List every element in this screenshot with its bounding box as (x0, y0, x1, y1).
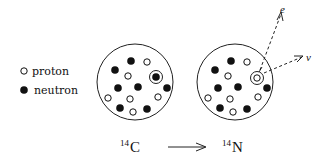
neutron-icon (163, 84, 171, 92)
neutron-icon (214, 84, 222, 92)
proton-icon (227, 96, 233, 102)
proton-icon (244, 59, 250, 65)
neutron-icon (143, 105, 151, 113)
carbon-14-nucleus (97, 44, 173, 120)
nitrogen-mass-number: 14 (222, 138, 232, 148)
neutron-legend-label: neutron (34, 84, 78, 97)
proton-icon (155, 94, 161, 100)
proton-icon (105, 95, 111, 101)
nitrogen-14-nucleus (197, 44, 273, 120)
neutrino-path (264, 57, 302, 73)
proton-icon (205, 95, 211, 101)
neutron-icon (127, 57, 135, 65)
proton-icon (130, 109, 136, 115)
neutron-icon (111, 66, 119, 74)
neutron-legend-icon (20, 86, 28, 94)
neutron-icon (114, 84, 122, 92)
neutron-icon (263, 84, 271, 92)
proton-icon (225, 73, 231, 79)
proton-icon (144, 59, 150, 65)
nucleus-boundary (97, 44, 173, 120)
electron-path (260, 14, 281, 70)
electron-label: e (280, 3, 285, 15)
carbon-mass-number: 14 (120, 138, 130, 148)
carbon-symbol: C (130, 139, 140, 155)
proton-icon (255, 94, 261, 100)
neutrino-label: ν (306, 51, 311, 63)
proton-icon (254, 75, 260, 81)
proton-icon (125, 73, 131, 79)
legend: proton neutron (20, 65, 78, 97)
proton-icon (230, 109, 236, 115)
neutrino-arrowhead-icon (294, 56, 303, 62)
neutron-icon (227, 57, 235, 65)
neutron-icon (211, 66, 219, 74)
neutron-icon (116, 104, 124, 112)
reaction-equation: 14 C 14 N (120, 138, 243, 155)
neutron-icon (134, 83, 142, 91)
beta-decay-diagram: proton neutron e ν 14 C 14 N (0, 0, 333, 164)
neutron-icon (243, 105, 251, 113)
neutron-icon (234, 83, 242, 91)
nitrogen-symbol: N (232, 139, 243, 155)
neutron-icon (152, 73, 160, 81)
proton-icon (127, 96, 133, 102)
proton-legend-label: proton (32, 65, 69, 78)
neutron-icon (216, 104, 224, 112)
proton-legend-icon (21, 68, 27, 74)
